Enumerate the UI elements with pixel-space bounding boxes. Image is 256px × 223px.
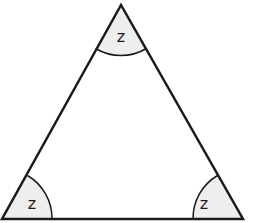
diagram-canvas: z z z xyxy=(0,0,256,223)
angle-label-bottom-left: z xyxy=(28,194,36,213)
angle-label-bottom-right: z xyxy=(200,194,208,213)
triangle-diagram: z z z xyxy=(0,0,256,223)
angle-label-top: z xyxy=(117,27,125,46)
